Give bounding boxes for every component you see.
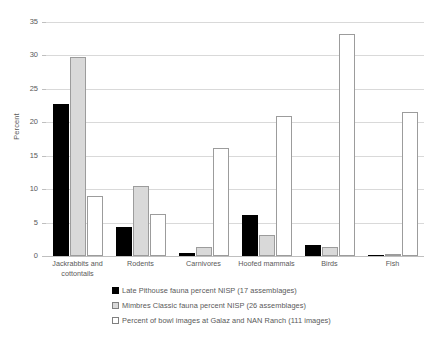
bar	[70, 57, 86, 256]
bar	[87, 196, 103, 256]
white-square-icon	[112, 317, 119, 324]
x-axis-category-label: Hoofed mammals	[235, 259, 298, 279]
bar-group	[109, 22, 172, 256]
legend-item[interactable]: Percent of bowl images at Galaz and NAN …	[112, 313, 331, 328]
bar	[402, 112, 418, 256]
bar	[179, 253, 195, 256]
y-tick-mark	[42, 156, 46, 157]
plot-area	[46, 22, 424, 256]
x-axis-category-label: Fish	[361, 259, 424, 279]
chart-legend: Late Pithouse fauna percent NISP (17 ass…	[112, 283, 331, 328]
legend-item[interactable]: Late Pithouse fauna percent NISP (17 ass…	[112, 283, 331, 298]
bar	[116, 227, 132, 256]
legend-item[interactable]: Mimbres Classic fauna percent NISP (26 a…	[112, 298, 331, 313]
x-axis-category-label: Jackrabbits and cottontails	[46, 259, 109, 279]
legend-item-label: Late Pithouse fauna percent NISP (17 ass…	[122, 286, 297, 295]
bar-chart: Percent 05101520253035 Jackrabbits and c…	[0, 0, 431, 338]
y-tick-label: 10	[4, 185, 38, 193]
bar	[213, 148, 229, 256]
bar	[339, 34, 355, 256]
bar	[150, 214, 166, 256]
y-axis-title: Percent	[12, 97, 21, 157]
bar-group	[298, 22, 361, 256]
bar	[322, 247, 338, 256]
bar	[276, 116, 292, 256]
bar	[53, 104, 69, 256]
filled-black-square-icon	[112, 287, 119, 294]
x-axis-labels: Jackrabbits and cottontailsRodentsCarniv…	[46, 259, 424, 279]
y-tick-mark	[42, 223, 46, 224]
y-tick-mark	[42, 22, 46, 23]
bars-layer	[46, 22, 424, 256]
gray-square-icon	[112, 302, 119, 309]
gridline	[46, 256, 424, 257]
bar	[259, 235, 275, 256]
y-tick-label: 30	[4, 51, 38, 59]
y-tick-label: 5	[4, 219, 38, 227]
bar-group	[172, 22, 235, 256]
y-tick-mark	[42, 189, 46, 190]
x-axis-category-label: Rodents	[109, 259, 172, 279]
legend-item-label: Percent of bowl images at Galaz and NAN …	[122, 316, 331, 325]
x-axis-category-label: Carnivores	[172, 259, 235, 279]
y-tick-mark	[42, 122, 46, 123]
y-tick-label: 15	[4, 152, 38, 160]
y-tick-label: 0	[4, 252, 38, 260]
x-axis-category-label: Birds	[298, 259, 361, 279]
bar-group	[235, 22, 298, 256]
y-tick-label: 20	[4, 118, 38, 126]
bar	[385, 254, 401, 256]
y-tick-mark	[42, 256, 46, 257]
bar-group	[361, 22, 424, 256]
y-tick-mark	[42, 89, 46, 90]
bar-group	[46, 22, 109, 256]
bar	[242, 215, 258, 256]
y-tick-mark	[42, 55, 46, 56]
legend-item-label: Mimbres Classic fauna percent NISP (26 a…	[122, 301, 306, 310]
y-tick-label: 35	[4, 18, 38, 26]
bar	[133, 186, 149, 256]
y-tick-label: 25	[4, 85, 38, 93]
bar	[196, 247, 212, 256]
bar	[368, 255, 384, 256]
bar	[305, 245, 321, 256]
